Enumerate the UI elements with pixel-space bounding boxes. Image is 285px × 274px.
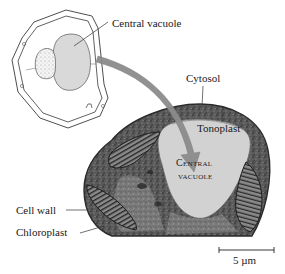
label-central-vacuole: Central vacuole [112,17,181,29]
schematic-cell [12,10,108,128]
label-central-vacuole-micrograph-1: Central [176,157,212,168]
label-tonoplast: Tonoplast [197,122,240,134]
label-cell-wall: Cell wall [16,204,56,216]
micrograph-granule [147,170,153,174]
label-cytosol: Cytosol [186,72,220,84]
micrograph-granule [154,202,162,207]
schematic-central-vacuole [53,34,91,90]
label-central-vacuole-micrograph-2: vacuole [178,170,213,181]
scale-bar: 5 µm [219,247,274,266]
figure: Central vacuole Cytosol Tonoplast Centra… [0,0,285,274]
scale-bar-label: 5 µm [233,254,257,266]
micrograph-granule [137,183,147,189]
label-chloroplast: Chloroplast [16,226,67,238]
schematic-nucleus [35,48,55,78]
diagram-canvas: Central vacuole Cytosol Tonoplast Centra… [0,0,285,274]
